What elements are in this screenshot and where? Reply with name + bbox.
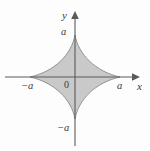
origin-label: 0 — [64, 80, 69, 90]
tick-label-y-positive: a — [61, 27, 66, 38]
tick-label-x-negative: −a — [21, 81, 33, 92]
y-axis-label: y — [62, 10, 67, 21]
plot-canvas — [0, 0, 150, 151]
y-axis-arrowhead — [71, 11, 79, 19]
x-axis-label: x — [137, 81, 142, 92]
tick-label-x-positive: a — [117, 81, 122, 92]
astroid-figure: y x a −a a −a 0 — [0, 0, 150, 151]
tick-label-y-negative: −a — [57, 123, 69, 134]
